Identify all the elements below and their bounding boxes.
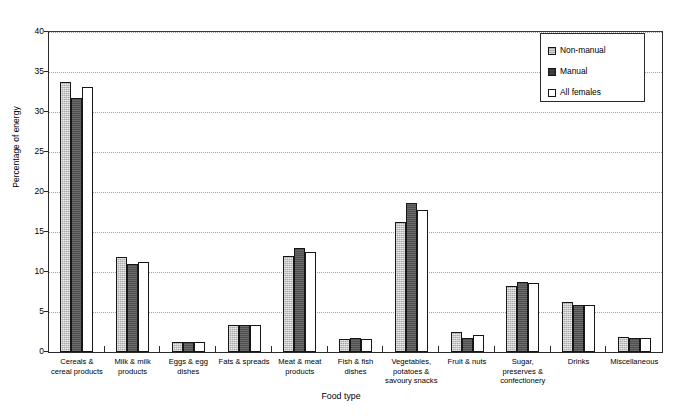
bar (250, 325, 261, 352)
x-tick-label: Cereals &cereal products (49, 357, 105, 391)
bar (462, 338, 473, 352)
bar (294, 248, 305, 352)
x-tick-label: Drinks (551, 357, 607, 391)
x-axis-title: Food type (0, 391, 682, 401)
legend-swatch-all-females (548, 89, 556, 97)
legend-swatch-manual (548, 68, 556, 76)
bar (640, 338, 651, 352)
bar (406, 203, 417, 352)
y-tick-label-20: 20 (18, 187, 44, 196)
bar-group (383, 32, 439, 352)
y-tick-label-5: 5 (18, 307, 44, 316)
bar (473, 335, 484, 352)
bar (239, 325, 250, 352)
bar (127, 264, 138, 352)
bar (138, 262, 149, 352)
y-tickmark-25 (44, 151, 48, 152)
bar-chart: Percentage of energy 4035302520151050 No… (0, 0, 682, 417)
x-tick-label: Milk & milkproducts (105, 357, 161, 391)
bar (183, 342, 194, 352)
y-tickmark-10 (44, 271, 48, 272)
bar (82, 87, 93, 352)
bar (60, 82, 71, 352)
bar-group (272, 32, 328, 352)
bar (395, 222, 406, 352)
bar (194, 342, 205, 352)
bar (283, 256, 294, 352)
bar (228, 325, 239, 352)
bar-group (439, 32, 495, 352)
bar-group (216, 32, 272, 352)
x-tick-label: Vegetables,potatoes &savoury snacks (383, 357, 439, 391)
y-tick-label-35: 35 (18, 67, 44, 76)
bar (116, 257, 127, 352)
legend-swatch-non-manual (548, 47, 556, 55)
y-tickmark-20 (44, 191, 48, 192)
bar (350, 338, 361, 352)
bar (339, 339, 350, 352)
legend-item: Non-manual (548, 40, 644, 61)
x-tick-label: Miscellaneous (606, 357, 662, 391)
bar (417, 210, 428, 352)
bar (506, 286, 517, 352)
bar-group (105, 32, 161, 352)
y-tick-label-10: 10 (18, 267, 44, 276)
bar (305, 252, 316, 352)
bar (517, 282, 528, 352)
bar-group (160, 32, 216, 352)
bar-group (328, 32, 384, 352)
y-tick-label-30: 30 (18, 107, 44, 116)
bar (618, 337, 629, 352)
y-axis-tick-labels: 4035302520151050 (14, 31, 44, 353)
legend-label-manual: Manual (560, 67, 587, 76)
y-tickmark-5 (44, 311, 48, 312)
y-tick-label-0: 0 (18, 347, 44, 356)
x-tick-label: Fruit & nuts (439, 357, 495, 391)
y-tickmark-30 (44, 111, 48, 112)
x-tick-label: Meat & meatproducts (272, 357, 328, 391)
y-tickmark-35 (44, 71, 48, 72)
x-axis-tick-labels: Cereals &cereal productsMilk & milkprodu… (49, 357, 662, 391)
x-tick-label: Eggs & eggdishes (160, 357, 216, 391)
y-tickmark-0 (44, 351, 48, 352)
y-tick-label-15: 15 (18, 227, 44, 236)
x-tick-label: Fish & fishdishes (328, 357, 384, 391)
bar (584, 305, 595, 352)
y-tickmark-15 (44, 231, 48, 232)
bar (629, 338, 640, 352)
bar-group (49, 32, 105, 352)
y-tick-label-25: 25 (18, 147, 44, 156)
plot-area: Non-manual Manual All females (48, 31, 663, 353)
y-tick-label-40: 40 (18, 27, 44, 36)
legend-item: All females (548, 82, 644, 103)
bar (562, 302, 573, 352)
legend-label-all-females: All females (560, 88, 601, 97)
bar (451, 332, 462, 352)
legend-item: Manual (548, 61, 644, 82)
y-tickmark-40 (44, 31, 48, 32)
bar (528, 283, 539, 352)
bar (71, 98, 82, 352)
x-tick-label: Fats & spreads (216, 357, 272, 391)
legend-label-non-manual: Non-manual (560, 46, 606, 55)
legend: Non-manual Manual All females (540, 33, 645, 102)
bar (172, 342, 183, 352)
x-tick-label: Sugar,preserves &confectionery (495, 357, 551, 391)
bar (361, 339, 372, 352)
bar (573, 305, 584, 352)
